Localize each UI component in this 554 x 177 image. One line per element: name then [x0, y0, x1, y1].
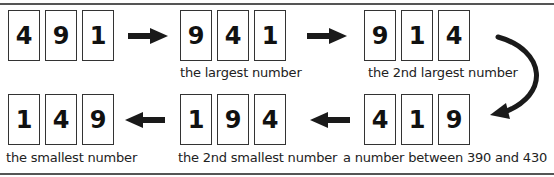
label-smallest: the smallest number — [6, 150, 137, 165]
digit-card: 4 — [438, 10, 470, 61]
card-group-419: 4 1 9 — [364, 94, 470, 145]
card-group-914: 9 1 4 — [364, 10, 470, 61]
digit-card: 4 — [254, 94, 286, 145]
arrow-right-icon — [128, 28, 168, 44]
digit-card: 1 — [401, 94, 433, 145]
card-group-491: 4 9 1 — [8, 10, 114, 61]
curved-arrow-icon — [490, 35, 550, 120]
digit-card: 1 — [401, 10, 433, 61]
card-group-194: 1 9 4 — [180, 94, 286, 145]
card-group-941: 9 4 1 — [180, 10, 286, 61]
digit-card: 4 — [364, 94, 396, 145]
digit-card: 4 — [45, 94, 77, 145]
digit-card: 9 — [217, 94, 249, 145]
digit-card: 1 — [8, 94, 40, 145]
digit-card: 4 — [217, 10, 249, 61]
arrow-right-icon — [307, 28, 347, 44]
arrow-left-icon — [310, 112, 350, 128]
digit-card: 4 — [8, 10, 40, 61]
label-2nd-smallest: the 2nd smallest number — [178, 150, 337, 165]
digit-card: 9 — [364, 10, 396, 61]
digit-card: 9 — [180, 10, 212, 61]
digit-card: 9 — [438, 94, 470, 145]
arrow-left-icon — [125, 112, 165, 128]
digit-card: 9 — [82, 94, 114, 145]
label-largest: the largest number — [180, 65, 302, 80]
digit-card: 1 — [180, 94, 212, 145]
digit-card: 1 — [254, 10, 286, 61]
label-between-390-430: a number between 390 and 430 — [343, 150, 547, 165]
card-group-149: 1 4 9 — [8, 94, 114, 145]
digit-card: 1 — [82, 10, 114, 61]
digit-card: 9 — [45, 10, 77, 61]
